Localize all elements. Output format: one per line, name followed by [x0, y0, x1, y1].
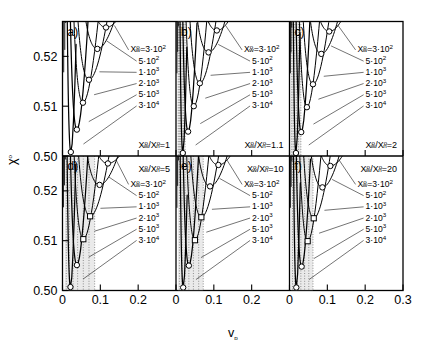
legend-exp: 3	[156, 200, 160, 207]
panel-tag-b: b)	[181, 25, 192, 39]
marker-square	[88, 214, 93, 219]
y-tick-label: 0.50	[33, 284, 57, 298]
legend-first-c: Xow=3·102	[358, 43, 394, 54]
legend-leader-line	[94, 218, 136, 231]
legend-first-a: Xow=3·102	[131, 43, 167, 54]
x-axis-label: vp	[228, 326, 238, 340]
legend-entry: 2·103	[366, 211, 387, 222]
legend-mant: 5·10	[139, 190, 156, 200]
legend-entry: 1·103	[366, 200, 387, 211]
y-tick-label: 0.51	[33, 234, 57, 248]
curve-3·10^2	[316, 5, 349, 32]
legend-exp: 2	[156, 189, 160, 196]
legend-first-f: Xow=3·102	[358, 178, 394, 189]
legend-exp: 3	[269, 200, 273, 207]
legend-entry: 1·103	[139, 200, 160, 211]
legend-leader-line	[318, 84, 363, 100]
legend-exp: 4	[156, 99, 160, 106]
legend-exp: 3	[383, 211, 387, 218]
ratio-annotation-d: Xow/Xon=5	[139, 163, 170, 174]
ratio-value: =5	[160, 164, 170, 174]
legend-leader-line	[196, 106, 250, 145]
legend-mant: 5·10	[252, 89, 269, 99]
x-tick-label: 0.1	[205, 293, 222, 307]
legend-eq: =3·10	[140, 179, 162, 189]
legend-entry: 1·103	[366, 65, 387, 76]
marker-circle	[105, 161, 110, 166]
x-tick-label: 0.1	[92, 293, 109, 307]
legend-mant: 1·10	[366, 67, 383, 77]
legend-leader-line	[99, 72, 136, 73]
legend-leader-line	[309, 106, 364, 145]
panel-tag-a: a)	[68, 25, 79, 39]
legend-leader-line	[339, 160, 356, 184]
legend-eq: =3·10	[367, 179, 389, 189]
legend-exp: 3	[383, 222, 387, 229]
legend-mant: 2·10	[139, 213, 156, 223]
legend-eq: =3·10	[254, 179, 276, 189]
panel-f: f)Xow/Xon=20Xow=3·1025·1021·1032·1035·10…	[290, 139, 397, 290]
legend-leader-line	[205, 84, 250, 99]
legend-mant: 2·10	[366, 213, 383, 223]
legend-entry: 1·103	[139, 65, 160, 76]
legend-first-b: Xow=3·102	[244, 43, 280, 54]
panel-c: c)Xow/Xon=2Xow=3·1025·1021·1032·1035·103…	[290, 4, 397, 156]
legend-entry: 5·102	[252, 54, 273, 65]
legend-mant: 2·10	[139, 78, 156, 88]
legend-mant: 3·10	[366, 235, 383, 245]
legend-exp: 3	[156, 88, 160, 95]
figure-canvas: a)Xow/Xon=1Xow=3·1025·1021·1032·1035·103…	[0, 0, 441, 340]
legend-leader-line	[226, 25, 243, 49]
legend-exp: 3	[383, 88, 387, 95]
marker-square	[305, 239, 310, 244]
y-tick-label: 0.52	[33, 184, 57, 198]
legend-leader-line	[211, 72, 251, 75]
legend-entry: 3·104	[139, 99, 160, 110]
x-tick-label: 0.2	[356, 293, 373, 307]
marker-circle	[310, 82, 315, 87]
legend-exp: 3	[269, 88, 273, 95]
legend-exp: 2	[389, 43, 393, 50]
legend-leader-line	[324, 207, 363, 210]
panel-tag-f: f)	[295, 159, 302, 173]
legend-exp: 3	[156, 77, 160, 84]
legend-mant: 5·10	[366, 190, 383, 200]
legend-leader-line	[314, 229, 364, 258]
y-tick-label: 0.51	[33, 100, 57, 114]
curve-2·10^3	[186, 5, 208, 106]
curve-1·10^3	[302, 4, 331, 84]
legend-entry: 2·103	[139, 77, 160, 88]
ratio-annotation-a: Xow/Xon=1	[139, 139, 170, 150]
marker-circle	[180, 150, 185, 155]
ratio-annotation-e: Xow/Xon=10	[247, 163, 283, 174]
legend-exp: 2	[389, 178, 393, 185]
legend-leader-line	[201, 229, 250, 257]
legend-mant: 3·10	[139, 235, 156, 245]
marker-square	[192, 238, 197, 243]
marker-circle	[304, 104, 309, 109]
x-tick-label: 0.1	[319, 293, 336, 307]
marker-circle	[299, 129, 304, 134]
legend-mant: 2·10	[252, 78, 269, 88]
ratio-value: =20	[382, 164, 397, 174]
marker-circle	[214, 28, 219, 33]
legend-exp: 2	[269, 54, 273, 61]
marker-circle	[328, 163, 333, 168]
legend-exp: 4	[269, 99, 273, 106]
legend-eq: =3·10	[140, 44, 162, 54]
legend-mant: 5·10	[366, 224, 383, 234]
legend-leader-line	[114, 25, 128, 49]
legend-leader-line	[196, 240, 250, 279]
legend-leader-line	[206, 218, 250, 232]
legend-leader-line	[319, 218, 363, 233]
legend-entry: 5·102	[366, 54, 387, 65]
marker-circle	[299, 264, 304, 269]
legend-entry: 5·103	[139, 88, 160, 99]
panel-a: a)Xow/Xon=1Xow=3·1025·1021·1032·1035·103…	[64, 5, 170, 155]
legend-first-d: Xow=3·102	[131, 178, 167, 189]
marker-circle	[207, 184, 212, 189]
legend-exp: 3	[269, 65, 273, 72]
legend-leader-line	[338, 25, 356, 49]
curve-5·10^2	[84, 5, 119, 49]
panel-e: e)Xow/Xon=10Xow=3·1025·1021·1032·1035·10…	[177, 139, 284, 291]
